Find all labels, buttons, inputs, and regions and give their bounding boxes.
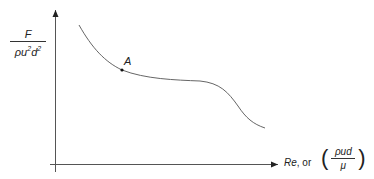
- y-axis-label: F ρu2d2: [8, 28, 48, 58]
- point-a-label: A: [124, 55, 131, 67]
- y-label-denominator: ρu2d2: [8, 43, 48, 58]
- paren-close: ): [358, 143, 365, 173]
- y-label-den-exp2: 2: [37, 45, 41, 52]
- x-label-or: , or: [297, 157, 311, 168]
- drag-coefficient-curve: [79, 25, 265, 128]
- x-frac-denominator: μ: [341, 160, 346, 171]
- x-axis-fraction: ( ρud μ ): [321, 143, 366, 173]
- point-a-marker: [120, 68, 123, 71]
- y-label-numerator: F: [8, 28, 48, 40]
- paren-open: (: [321, 143, 328, 173]
- diagram-canvas: [0, 0, 374, 179]
- x-frac-numerator: ρud: [335, 146, 352, 157]
- x-axis-label: Re, or: [284, 157, 311, 168]
- fraction-bar: [10, 41, 46, 42]
- y-label-den-base: ρu: [15, 46, 27, 58]
- fraction-bar: [331, 158, 355, 159]
- x-label-re: Re: [284, 157, 297, 168]
- reynolds-fraction: ρud μ: [331, 146, 355, 171]
